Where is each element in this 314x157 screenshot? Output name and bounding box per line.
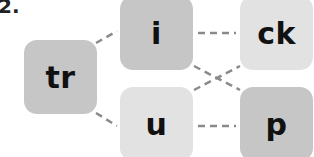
line-u-ck <box>194 66 240 90</box>
tile-p: p <box>240 87 313 157</box>
tile-i: i <box>120 0 193 70</box>
line-tr-i <box>96 31 117 43</box>
tile-tr: tr <box>24 40 97 114</box>
line-tr-u <box>96 113 117 126</box>
tile-u: u <box>120 87 193 157</box>
tile-ck: ck <box>240 0 313 70</box>
